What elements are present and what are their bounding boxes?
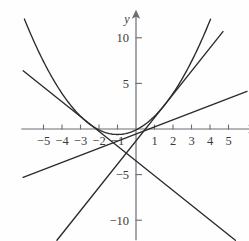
x-tick-label: 2 — [170, 134, 176, 148]
graph-figure: −5−4−3−2−112345105−5−10xy — [0, 0, 249, 241]
x-tick-label: 4 — [207, 134, 214, 148]
x-tick-label: 5 — [225, 134, 231, 148]
x-tick-label: 3 — [188, 134, 194, 148]
x-tick-label: −5 — [37, 134, 50, 148]
y-axis-label: y — [123, 12, 130, 26]
y-tick-label: −10 — [109, 214, 129, 228]
y-tick-label: 10 — [117, 31, 130, 45]
y-tick-label: 5 — [123, 77, 129, 91]
x-tick-label: 1 — [151, 134, 157, 148]
x-tick-label: −4 — [55, 134, 69, 148]
x-tick-label: −3 — [74, 134, 87, 148]
y-tick-label: −5 — [116, 168, 129, 182]
coordinate-plot: −5−4−3−2−112345105−5−10xy — [0, 0, 249, 241]
curve-falling-line — [23, 71, 235, 240]
